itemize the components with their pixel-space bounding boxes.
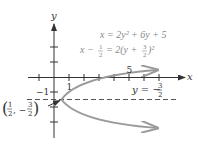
svg-text:x −: x − [79, 44, 94, 55]
svg-text:): ) [33, 99, 39, 118]
equation-standard-form: x = 2y² + 6y + 5 [99, 29, 167, 40]
y-axis-label: y [50, 10, 57, 21]
x-tick-label-1: 1 [67, 82, 73, 92]
graph-canvas: y x 1 5 −1 x = 2y² + 6y + 5 x − 1 2 = 2(… [0, 0, 199, 150]
svg-text:2: 2 [143, 51, 147, 59]
svg-text:2: 2 [158, 91, 162, 99]
parabola-lower-branch [62, 100, 158, 129]
svg-text:3: 3 [158, 82, 162, 90]
parabola-diagram: y x 1 5 −1 x = 2y² + 6y + 5 x − 1 2 = 2(… [0, 0, 199, 150]
svg-text:= 2(y +: = 2(y + [106, 44, 137, 56]
vertex-label: ( 1 2 , − 3 2 ) [2, 99, 39, 118]
svg-text:2: 2 [8, 110, 12, 118]
x-axis-label: x [187, 71, 193, 82]
axis-of-symmetry-label: y = − 3 2 [131, 82, 162, 99]
svg-text:)²: )² [147, 44, 155, 56]
svg-text:, −: , − [13, 105, 26, 115]
y-tick-label-neg1: −1 [36, 87, 49, 97]
svg-text:3: 3 [143, 43, 147, 51]
svg-text:1: 1 [8, 101, 12, 109]
equation-vertex-form: x − 1 2 = 2(y + 3 2 )² [79, 43, 155, 59]
svg-text:3: 3 [28, 101, 32, 109]
svg-text:2: 2 [28, 110, 32, 118]
svg-text:y = −: y = − [131, 84, 161, 95]
svg-text:2: 2 [99, 51, 103, 59]
x-tick-label-5: 5 [127, 65, 133, 75]
svg-text:1: 1 [99, 43, 103, 51]
